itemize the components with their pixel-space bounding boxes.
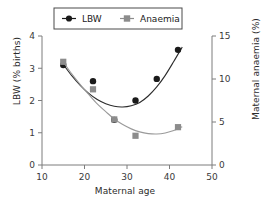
y-axis-right-tick-label: 10 bbox=[219, 74, 231, 84]
legend-label-lbw: LBW bbox=[82, 14, 102, 24]
fit-curve-lbw bbox=[63, 47, 182, 107]
y-axis-left-tick-label: 4 bbox=[29, 31, 35, 41]
y-axis-left-tick-label: 0 bbox=[29, 160, 35, 170]
data-point-lbw bbox=[175, 47, 181, 53]
chart-figure: LBW (% births) Maternal anaemia (%) Mate… bbox=[0, 0, 276, 206]
y-axis-left-ticks: 01234 bbox=[29, 31, 42, 170]
y-axis-left-tick-label: 2 bbox=[29, 96, 35, 106]
data-point-lbw bbox=[90, 78, 96, 84]
data-point-anaemia bbox=[175, 124, 181, 130]
fit-curve-anaemia bbox=[63, 62, 182, 134]
legend-marker-circle-icon bbox=[66, 15, 72, 21]
x-axis-ticks: 1020304050 bbox=[36, 165, 218, 182]
x-axis-tick-label: 40 bbox=[164, 172, 176, 182]
data-point-anaemia bbox=[90, 86, 96, 92]
y-axis-left-tick-label: 3 bbox=[29, 64, 35, 74]
series-anaemia bbox=[60, 59, 182, 139]
legend-label-anaemia: Anaemia bbox=[140, 14, 180, 24]
data-point-anaemia bbox=[111, 116, 117, 122]
data-point-lbw bbox=[154, 76, 160, 82]
data-point-lbw bbox=[132, 97, 138, 103]
series-lbw bbox=[60, 47, 182, 123]
x-axis-tick-label: 10 bbox=[36, 172, 48, 182]
y-axis-right-ticks: 051015 bbox=[212, 31, 231, 170]
legend-marker-square-icon bbox=[124, 15, 130, 21]
x-axis-tick-label: 30 bbox=[121, 172, 133, 182]
y-axis-right-tick-label: 0 bbox=[219, 160, 225, 170]
y-axis-right-tick-label: 15 bbox=[219, 31, 230, 41]
y-axis-left-tick-label: 1 bbox=[29, 128, 35, 138]
plot-area: LBW Anaemia 01234 051015 1020304050 bbox=[0, 0, 276, 206]
data-point-anaemia bbox=[132, 133, 138, 139]
legend: LBW Anaemia bbox=[54, 8, 182, 29]
data-point-anaemia bbox=[60, 59, 66, 65]
x-axis-tick-label: 20 bbox=[79, 172, 91, 182]
y-axis-right-tick-label: 5 bbox=[219, 117, 225, 127]
data-series-layer bbox=[60, 47, 182, 139]
x-axis-tick-label: 50 bbox=[206, 172, 218, 182]
